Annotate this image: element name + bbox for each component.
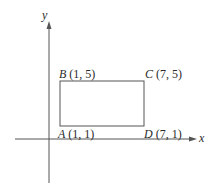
point-b-name: B	[59, 67, 66, 81]
point-c-label: C (7, 5)	[145, 68, 182, 80]
rectangle-abcd	[60, 81, 144, 126]
point-a-name: A	[58, 127, 65, 141]
point-c-coords: (7, 5)	[156, 67, 182, 81]
y-axis-label: y	[42, 9, 47, 21]
point-d-name: D	[144, 127, 153, 141]
point-a-coords: (1, 1)	[68, 127, 94, 141]
y-axis-arrow-icon	[47, 21, 52, 29]
point-b-coords: (1, 5)	[69, 67, 95, 81]
coordinate-diagram: y x B (1, 5) C (7, 5) A (1, 1) D (7, 1)	[0, 0, 213, 192]
x-axis-arrow-icon	[189, 137, 197, 142]
x-axis-label: x	[199, 132, 204, 144]
point-d-coords: (7, 1)	[156, 127, 182, 141]
diagram-canvas	[0, 0, 213, 192]
point-d-label: D (7, 1)	[144, 128, 182, 140]
point-a-label: A (1, 1)	[58, 128, 94, 140]
point-c-name: C	[145, 67, 153, 81]
point-b-label: B (1, 5)	[59, 68, 95, 80]
